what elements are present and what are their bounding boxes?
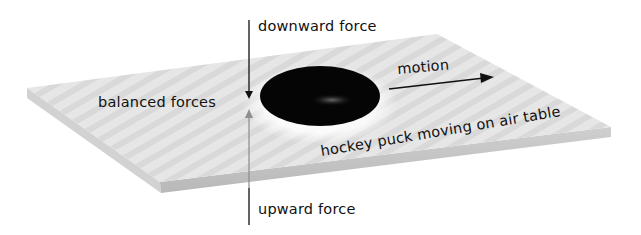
force-diagram: downward force balanced forces motion ho…: [0, 0, 641, 235]
puck-highlight: [310, 94, 354, 106]
downward-force-label: downward force: [258, 18, 377, 34]
upward-force-label: upward force: [258, 201, 356, 217]
balanced-forces-label: balanced forces: [98, 94, 216, 110]
hockey-puck: [260, 66, 380, 126]
